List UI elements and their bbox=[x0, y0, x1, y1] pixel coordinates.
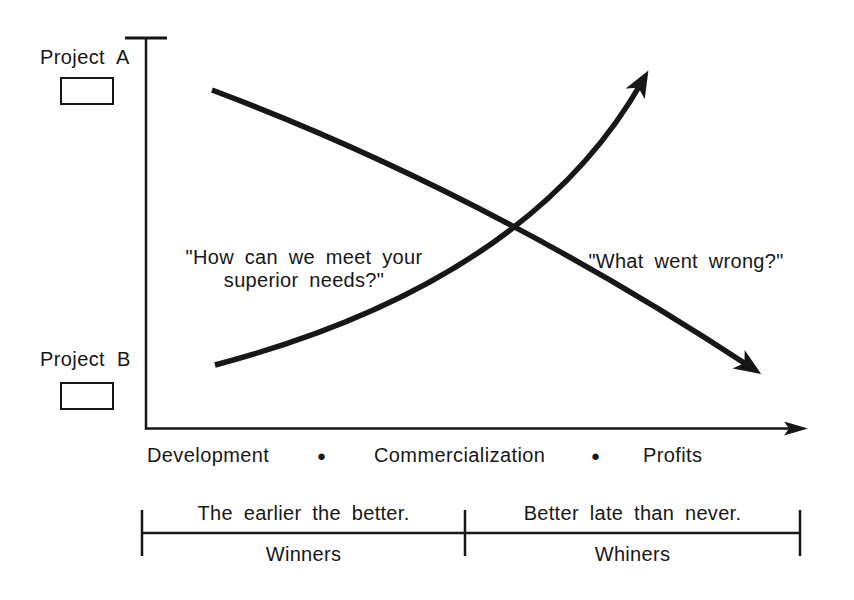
project-b-curve bbox=[215, 80, 643, 365]
left-segment-group: Winners bbox=[142, 543, 465, 566]
early-stage-quote-line1: "How can we meet your bbox=[178, 246, 430, 269]
project-b-swatch bbox=[60, 382, 114, 410]
project-a-swatch bbox=[60, 77, 114, 105]
early-stage-quote-line2: superior needs?" bbox=[178, 269, 430, 292]
figure-canvas: Project A Project B "How can we meet you… bbox=[0, 0, 854, 600]
right-segment-caption: Better late than never. bbox=[465, 502, 800, 525]
early-stage-quote: "How can we meet your superior needs?" bbox=[178, 246, 430, 292]
stage-label-development: Development bbox=[147, 444, 269, 467]
stage-label-profits: Profits bbox=[643, 444, 702, 467]
late-stage-quote: "What went wrong?" bbox=[580, 250, 792, 273]
project-b-label: Project B bbox=[40, 348, 131, 370]
bullet-separator-icon: ● bbox=[317, 444, 326, 467]
bullet-separator-icon: ● bbox=[591, 444, 600, 467]
project-a-label: Project A bbox=[40, 46, 130, 68]
right-segment-group: Whiners bbox=[465, 543, 800, 566]
project-a-curve bbox=[212, 90, 752, 368]
stage-label-commercialization: Commercialization bbox=[374, 444, 545, 467]
left-segment-caption: The earlier the better. bbox=[142, 502, 465, 525]
